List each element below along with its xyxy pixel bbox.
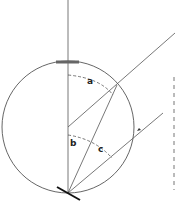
incident-ray-line xyxy=(68,33,175,127)
angle-label-c: c xyxy=(98,144,103,154)
bottom-mirror xyxy=(57,187,80,200)
arrow-icon xyxy=(137,128,141,131)
angle-label-a: a xyxy=(87,76,93,86)
angle-label-b: b xyxy=(70,138,77,148)
reflection-diagram: a b c xyxy=(0,0,175,205)
reflected-ray-line xyxy=(68,113,163,193)
top-mirror-bar xyxy=(56,61,79,64)
